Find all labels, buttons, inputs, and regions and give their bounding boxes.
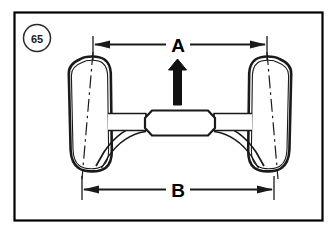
differential-housing	[145, 111, 215, 136]
dimension-a-label: A	[171, 35, 185, 56]
figure-number-badge: 65	[24, 25, 51, 52]
right-wheel-outline	[248, 56, 291, 171]
right-wheel	[248, 52, 291, 179]
differential-housing-outline	[145, 111, 215, 136]
figure-number-label: 65	[31, 33, 43, 45]
left-wheel	[69, 52, 112, 179]
dimension-b-label: B	[171, 180, 185, 201]
left-wheel-outline	[69, 56, 112, 171]
axle-diagram: 65	[0, 0, 336, 234]
right-axle-tube	[214, 114, 252, 131]
figure-panel: 65	[0, 0, 336, 234]
left-axle-tube	[108, 114, 146, 131]
